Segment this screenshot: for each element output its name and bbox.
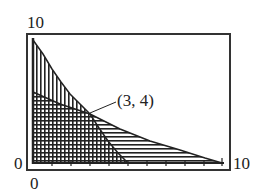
- point-leader-line: [90, 102, 116, 113]
- x-max-label: 10: [233, 155, 250, 172]
- y-max-label: 10: [27, 14, 44, 31]
- x-min-label: 0: [30, 175, 39, 192]
- point-label: (3, 4): [117, 92, 154, 109]
- y-min-label: 0: [14, 155, 23, 172]
